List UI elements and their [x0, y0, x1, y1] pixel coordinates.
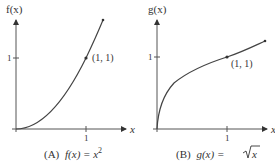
panel-a-caption-prefix: (A) [44, 148, 60, 161]
panel-b-xlabel: x [270, 123, 275, 135]
panel-a-xlabel: x [129, 123, 135, 135]
figure: f(x) x 1 1 (1, 1) (A) f(x) = x2 g(x) x 1… [0, 0, 275, 164]
panel-b-point [225, 55, 228, 58]
panel-a-point [84, 56, 87, 59]
panel-b-caption-prefix: (B) [176, 148, 191, 161]
panel-a-caption-exp: 2 [98, 146, 102, 155]
panel-b-point-label: (1, 1) [231, 58, 253, 70]
panel-b-chart: g(x) x 1 1 (1, 1) (B) g(x) = x [148, 3, 275, 161]
panel-a-caption-func: f(x) = x [65, 148, 98, 161]
panel-a-caption: (A) f(x) = x2 [44, 146, 102, 161]
panel-b-curve [157, 41, 265, 129]
panel-b-xtick-label: 1 [225, 133, 230, 143]
panel-b-ytick-label: 1 [148, 52, 153, 62]
panel-b-caption: (B) g(x) = [176, 148, 224, 161]
panel-b-caption-root: x [251, 148, 257, 160]
panel-a-ylabel: f(x) [6, 3, 23, 16]
panel-b-caption-func: g(x) = [196, 148, 224, 161]
panel-b-end-point [264, 40, 267, 43]
panel-a-xtick-label: 1 [84, 133, 89, 143]
panel-b-ylabel: g(x) [148, 3, 167, 16]
panel-a-point-label: (1, 1) [92, 52, 114, 64]
panel-a-chart: f(x) x 1 1 (1, 1) (A) f(x) = x2 [6, 3, 135, 161]
panel-a-curve [16, 20, 103, 129]
panel-a-ytick-label: 1 [7, 53, 12, 63]
panel-a-end-point [102, 19, 105, 22]
